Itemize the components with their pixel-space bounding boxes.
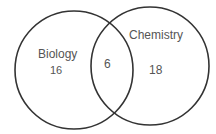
biology-circle bbox=[15, 11, 133, 129]
chemistry-label: Chemistry bbox=[129, 28, 183, 42]
chemistry-only-value: 18 bbox=[149, 63, 162, 77]
intersection-value: 6 bbox=[104, 57, 111, 71]
biology-only-value: 16 bbox=[50, 63, 62, 77]
biology-label: Biology bbox=[38, 47, 77, 61]
